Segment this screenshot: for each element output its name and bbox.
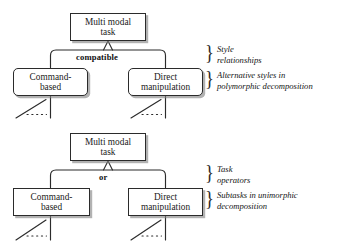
top-right-diagonal	[131, 100, 161, 119]
bottom-right-diagonal	[131, 220, 161, 240]
connector-label-compatible: compatible	[76, 52, 118, 62]
connector-label-or: or	[99, 172, 107, 182]
diagram-canvas: Multi modal task compatible Command- bas…	[0, 0, 348, 247]
node-root-multi-modal-task-top[interactable]: Multi modal task	[70, 13, 146, 41]
bottom-bracket-path	[51, 170, 166, 188]
bottom-peak-right-stroke	[108, 161, 113, 170]
brace-icon-subtasks-unimorphic: }	[205, 187, 214, 209]
top-peak-left-stroke	[104, 41, 109, 50]
node-direct-manipulation-top[interactable]: Direct manipulation	[128, 68, 203, 96]
node-label: Direct manipulation	[139, 72, 192, 92]
bottom-peak-left-stroke	[104, 161, 109, 170]
top-left-diagonal	[16, 100, 46, 119]
node-label: Direct manipulation	[139, 192, 192, 212]
node-direct-manipulation-bottom[interactable]: Direct manipulation	[128, 188, 203, 216]
annotation-style-relationships: Style relationships	[217, 44, 262, 66]
node-label: Multi modal task	[83, 17, 133, 37]
node-root-multi-modal-task-bottom[interactable]: Multi modal task	[70, 133, 146, 161]
brace-icon-alternative-styles: }	[205, 67, 214, 89]
node-command-based-bottom[interactable]: Command- based	[13, 188, 90, 216]
node-label: Multi modal task	[83, 137, 133, 157]
annotation-task-operators: Task operators	[217, 164, 250, 186]
node-label: Command- based	[28, 72, 74, 92]
bottom-left-diagonal	[16, 220, 46, 240]
brace-icon-task-operators: }	[205, 161, 214, 183]
annotation-subtasks-unimorphic: Subtasks in unimorphic decomposition	[217, 190, 298, 212]
node-command-based-top[interactable]: Command- based	[13, 68, 88, 96]
annotation-alternative-styles: Alternative styles in polymorphic decomp…	[217, 70, 313, 92]
brace-icon-style-relationships: }	[205, 41, 214, 63]
node-label: Command- based	[29, 192, 75, 212]
top-peak-right-stroke	[108, 41, 113, 50]
